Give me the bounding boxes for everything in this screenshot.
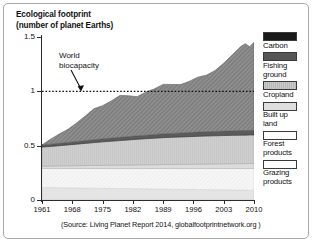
x-tick-label: 1996	[178, 205, 208, 214]
x-tick	[224, 200, 225, 204]
x-tick-label: 1982	[118, 205, 148, 214]
x-tick	[163, 200, 164, 204]
y-tick-label: 0.5	[4, 141, 35, 150]
legend-item[interactable]: Built up land	[263, 102, 311, 129]
x-tick-label: 1989	[148, 205, 178, 214]
legend-label: Forest products	[263, 140, 311, 158]
y-tick	[37, 37, 42, 38]
x-tick-label: 1975	[88, 205, 118, 214]
annotation-world-biocapacity: World biocapacity	[59, 51, 99, 71]
chart-legend: CarbonFishing groundCroplandBuilt up lan…	[263, 32, 311, 189]
x-tick-label: 1961	[27, 205, 57, 214]
y-tick	[37, 146, 42, 147]
y-tick-label: 0	[4, 195, 35, 204]
y-axis-line	[41, 35, 42, 202]
legend-label: Cropland	[263, 91, 311, 100]
area-band-forest-products	[42, 168, 254, 190]
x-tick	[42, 200, 43, 204]
legend-item[interactable]: Carbon	[263, 32, 311, 50]
legend-item[interactable]: Forest products	[263, 131, 311, 158]
x-tick-label: 2010	[239, 205, 269, 214]
legend-label: Built up land	[263, 111, 311, 129]
source-note: (Source: Living Planet Report 2014, glob…	[61, 220, 261, 229]
legend-label: Carbon	[263, 42, 311, 51]
y-tick-label: 1	[4, 86, 35, 95]
legend-item[interactable]: Fishing ground	[263, 52, 311, 79]
x-tick	[133, 200, 134, 204]
chart-card: Ecological footprint (number of planet E…	[3, 3, 309, 239]
legend-label: Grazing products	[263, 169, 311, 187]
x-tick	[193, 200, 194, 204]
legend-swatch	[263, 52, 297, 61]
x-tick-label: 2003	[209, 205, 239, 214]
x-tick	[103, 200, 104, 204]
x-tick-label: 1968	[57, 205, 87, 214]
legend-item[interactable]: Cropland	[263, 81, 311, 99]
y-tick-label: 1.5	[4, 32, 35, 41]
legend-item[interactable]: Grazing products	[263, 160, 311, 187]
x-tick	[254, 200, 255, 204]
x-tick	[72, 200, 73, 204]
legend-label: Fishing ground	[263, 62, 311, 80]
page-title: Ecological footprint (number of planet E…	[16, 10, 216, 31]
y-tick	[37, 91, 42, 92]
legend-swatch	[263, 32, 297, 41]
